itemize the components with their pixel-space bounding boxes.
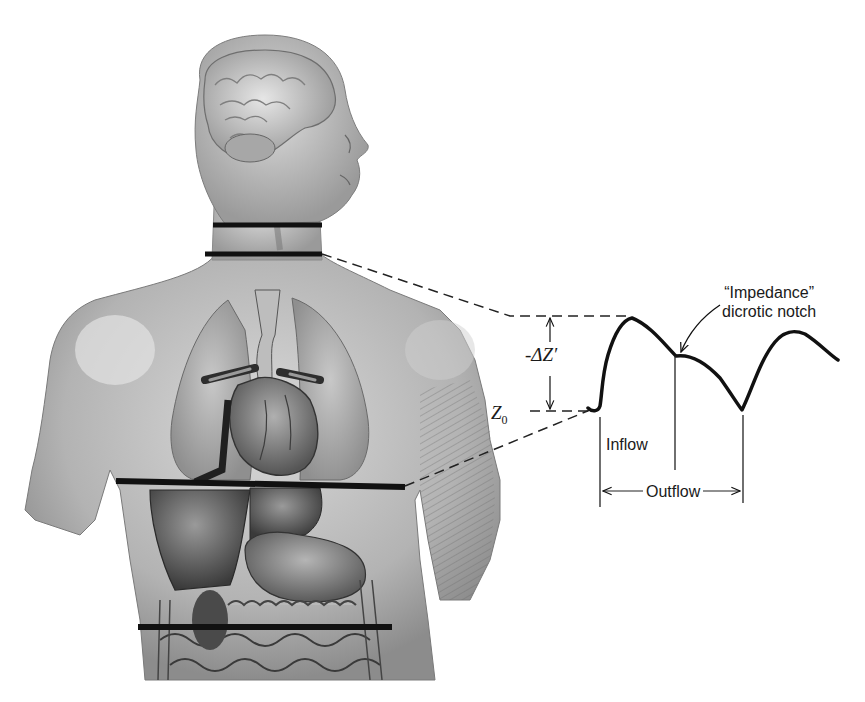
- impedance-waveform: [588, 318, 838, 411]
- torso-illustration: [25, 35, 500, 680]
- z0-base: Z: [491, 402, 502, 423]
- cerebellum: [225, 134, 275, 162]
- right-shoulder-highlight: [405, 320, 475, 380]
- kidney-left: [192, 590, 228, 650]
- z0-subscript: 0: [502, 413, 508, 427]
- dicrotic-notch-annotation: “Impedance” dicrotic notch: [722, 283, 816, 321]
- impedance-cardiography-figure: [0, 0, 865, 702]
- left-shoulder-highlight: [75, 315, 155, 385]
- inflow-label: Inflow: [606, 436, 648, 454]
- delta-z-label: -ΔZ′: [525, 344, 557, 366]
- annotation-line-2: dicrotic notch: [722, 302, 816, 321]
- z0-baseline-label: Z0: [491, 402, 508, 428]
- dicrotic-notch-pointer-arrow: [681, 305, 720, 352]
- outflow-label: Outflow: [643, 483, 703, 501]
- annotation-line-1: “Impedance”: [722, 283, 816, 302]
